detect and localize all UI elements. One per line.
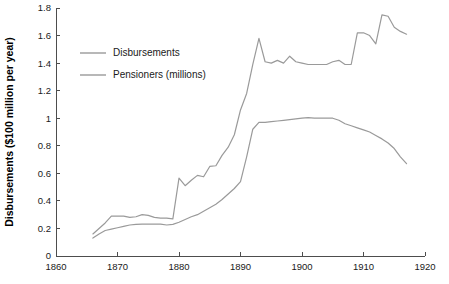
- y-axis-title: Disbursements ($100 million per year): [3, 37, 15, 227]
- x-tick-label: 1900: [291, 261, 312, 272]
- legend-label-1: Disbursements: [113, 47, 180, 58]
- legend-label-2: Pensioners (millions): [113, 69, 206, 80]
- y-tick-label: 1.6: [38, 30, 51, 41]
- chart-legend: DisbursementsPensioners (millions): [80, 47, 206, 80]
- y-tick-label: 0: [46, 250, 51, 261]
- y-tick-label: 0.6: [38, 168, 51, 179]
- chart-figure: 00.20.40.60.811.21.41.61.8 1860187018801…: [0, 0, 449, 284]
- y-tick-label: 1.4: [38, 58, 51, 69]
- y-tick-label: 1.2: [38, 85, 51, 96]
- x-tick-label: 1860: [45, 261, 66, 272]
- y-tick-label: 0.2: [38, 223, 51, 234]
- x-tick-label: 1880: [168, 261, 189, 272]
- y-tick-label: 0.8: [38, 140, 51, 151]
- x-tick-label: 1920: [414, 261, 435, 272]
- x-axis-ticks: 1860187018801890190019101920: [45, 252, 435, 272]
- series-line-pensioners-millions: [93, 118, 407, 239]
- y-tick-label: 1: [46, 113, 51, 124]
- y-axis-ticks: 00.20.40.60.811.21.41.61.8: [38, 2, 60, 261]
- line-chart: 00.20.40.60.811.21.41.61.8 1860187018801…: [0, 0, 449, 284]
- x-tick-label: 1910: [353, 261, 374, 272]
- x-tick-label: 1890: [230, 261, 251, 272]
- y-tick-label: 0.4: [38, 195, 51, 206]
- x-tick-label: 1870: [107, 261, 128, 272]
- y-tick-label: 1.8: [38, 2, 51, 13]
